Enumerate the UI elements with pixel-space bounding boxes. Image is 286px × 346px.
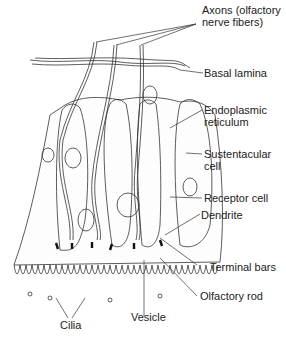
label-sustentacular-cell: Sustentacular cell: [204, 148, 271, 172]
epithelium-outline: [14, 97, 222, 265]
label-axons: Axons (olfactory nerve fibers): [202, 4, 281, 28]
label-dendrite: Dendrite: [201, 209, 243, 221]
basal-lamina-fibers: [30, 58, 190, 70]
label-cilia: Cilia: [60, 319, 81, 331]
label-olfactory-rod: Olfactory rod: [200, 290, 263, 302]
label-vesicle: Vesicle: [131, 311, 166, 323]
label-terminal-bars: Terminal bars: [210, 261, 276, 273]
cilia-fringe: [14, 265, 218, 274]
label-basal-lamina: Basal lamina: [204, 67, 267, 79]
label-endoplasmic-reticulum: Endoplasmic reticulum: [204, 104, 267, 128]
label-receptor-cell: Receptor cell: [204, 192, 268, 204]
